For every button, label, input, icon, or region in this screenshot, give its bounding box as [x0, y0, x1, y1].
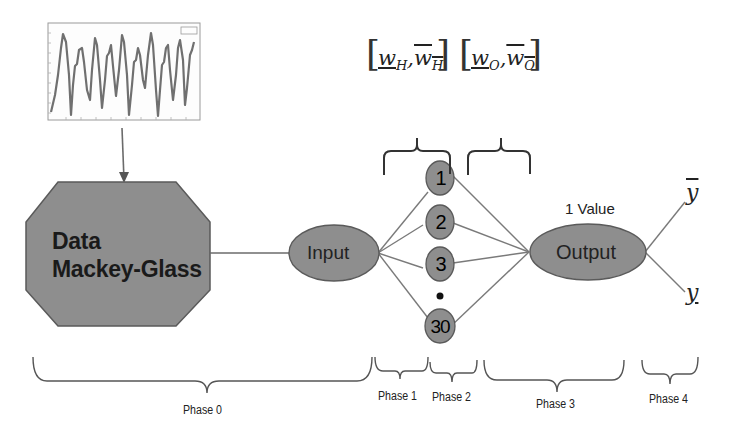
phase-4-label: Phase 4 [649, 392, 688, 406]
phase-1-label: Phase 1 [378, 389, 417, 403]
output-lower-bound: y [686, 280, 698, 305]
input-node-label: Input [307, 243, 349, 262]
hidden-weight-lower: wH,wH [378, 46, 443, 73]
hidden-node-2 [426, 205, 454, 239]
hidden-node-3 [426, 247, 454, 281]
output-weight-lower: wO,wO [471, 46, 535, 73]
data-block-line2: Mackey-Glass [52, 255, 202, 283]
brace-phase-1 [375, 357, 428, 379]
inset-chart [48, 23, 200, 120]
hidden-layer [425, 161, 455, 343]
arrow-chart-to-data [119, 128, 129, 183]
edges-hidden-output [450, 175, 529, 327]
phase-2-label: Phase 2 [432, 390, 471, 404]
bracket-close: ] [436, 36, 450, 72]
weight-braces [384, 138, 530, 175]
output-node-label: Output [556, 242, 616, 262]
phase-braces [33, 357, 698, 393]
brace-output-weights [468, 138, 530, 175]
brace-phase-0 [33, 357, 372, 393]
brace-phase-3 [484, 360, 624, 392]
data-block-line1: Data [52, 227, 202, 255]
phase-3-label: Phase 3 [536, 397, 575, 411]
brace-phase-4 [642, 357, 698, 384]
brace-phase-2 [430, 360, 477, 382]
hidden-node-30 [425, 309, 455, 343]
ellipsis-dot [437, 293, 444, 300]
edges-input-hidden [378, 192, 428, 318]
bracket-close: ] [528, 36, 542, 72]
edges-output-y [645, 202, 685, 292]
phase-0-label: Phase 0 [183, 403, 222, 417]
data-block-label: Data Mackey-Glass [52, 227, 202, 283]
output-upper-bound: y [686, 180, 698, 205]
output-annotation: 1 Value [565, 201, 615, 216]
